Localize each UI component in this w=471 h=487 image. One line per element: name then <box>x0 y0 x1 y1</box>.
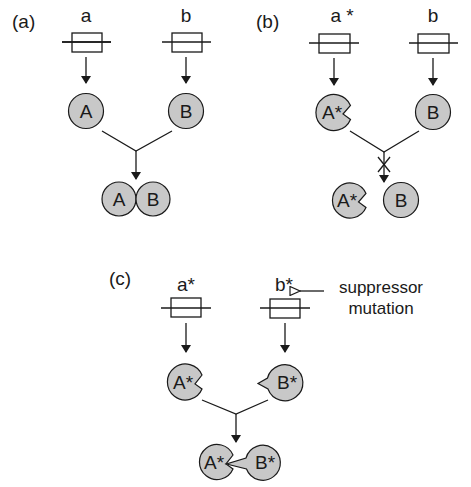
panel-label-b: (b) <box>256 11 279 32</box>
gene-label-a-star: a* <box>177 274 196 295</box>
protein-label-A-star: A* <box>322 102 343 123</box>
protein-A-star: A* <box>167 364 202 400</box>
gene-a-star: a* <box>161 274 211 317</box>
protein-label-B-star: B* <box>277 372 298 393</box>
complex-label-B: B <box>147 189 160 210</box>
complex-A-star-B-star: A* B* <box>199 444 280 480</box>
panel-label-c: (c) <box>109 268 131 289</box>
annotation-line2: mutation <box>348 299 413 318</box>
protein-label-B: B <box>395 190 408 211</box>
panel-label-a: (a) <box>12 11 35 32</box>
protein-A: A <box>69 94 104 129</box>
interaction-junction <box>102 131 172 151</box>
suppressor-annotation: suppressor mutation <box>300 278 423 318</box>
panel-a: (a) a b A B <box>12 5 211 216</box>
protein-B: B <box>416 95 451 130</box>
protein-label-A: A <box>80 101 93 122</box>
gene-a: a <box>62 5 111 52</box>
annotation-line1: suppressor <box>339 278 423 297</box>
interaction-junction <box>350 131 419 152</box>
protein-B-star: B* <box>258 365 303 401</box>
gene-label-b: b <box>428 5 439 26</box>
complex-label-A: A <box>113 189 126 210</box>
protein-label-B: B <box>427 102 440 123</box>
protein-B: B <box>169 94 204 129</box>
gene-b: b <box>409 5 458 53</box>
interaction-junction <box>202 400 268 414</box>
gene-b: b <box>162 5 211 52</box>
suppressor-mutation-diagram: (a) a b A B <box>0 0 471 487</box>
protein-label-B: B <box>180 101 193 122</box>
panel-b: (b) a * b A* B A* <box>256 5 458 218</box>
gene-a-star: a * <box>309 5 359 53</box>
complex-AB: A B <box>102 182 170 216</box>
gene-label-b: b <box>181 5 192 26</box>
protein-label-A-star: A* <box>173 372 194 393</box>
gene-label-a: a <box>81 5 92 26</box>
complex-label-A-star: A* <box>204 452 225 473</box>
separate-proteins: A* B <box>332 183 418 219</box>
complex-label-B-star: B* <box>255 452 276 473</box>
gene-b-star: b* <box>260 274 310 318</box>
protein-A-star: A* <box>316 95 351 131</box>
panel-c: (c) a* b* suppressor mutation A* B* <box>109 268 423 480</box>
gene-label-a-star: a * <box>330 5 354 26</box>
gene-label-b-star: b* <box>275 274 294 295</box>
protein-label-A-star: A* <box>337 190 358 211</box>
